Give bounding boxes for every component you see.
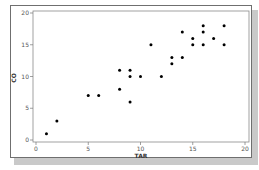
data-point — [223, 43, 226, 46]
x-tick-label: 20 — [241, 145, 249, 152]
scatter-chart: 05101520 05101520 TAR CO — [0, 0, 259, 170]
data-point — [87, 94, 90, 97]
data-point — [181, 31, 184, 34]
data-point — [202, 43, 205, 46]
y-tick-label: 20 — [21, 9, 29, 16]
y-tick-label: 15 — [21, 41, 29, 48]
x-axis-title: TAR — [135, 152, 148, 159]
y-tick-label: 5 — [25, 104, 29, 111]
data-point — [97, 94, 100, 97]
x-tick-label: 5 — [86, 145, 90, 152]
x-tick-label: 10 — [137, 145, 145, 152]
x-axis: 05101520 — [34, 142, 249, 152]
data-point — [149, 43, 152, 46]
data-point — [160, 75, 163, 78]
data-point — [212, 37, 215, 40]
data-point — [202, 24, 205, 27]
data-point — [129, 75, 132, 78]
data-point — [191, 43, 194, 46]
y-tick-label: 0 — [25, 136, 29, 143]
data-point — [129, 69, 132, 72]
data-point — [129, 100, 132, 103]
data-point — [181, 56, 184, 59]
y-axis-title: CO — [10, 73, 17, 83]
data-point — [223, 24, 226, 27]
x-tick-label: 0 — [34, 145, 38, 152]
data-point — [118, 88, 121, 91]
data-point — [118, 69, 121, 72]
data-point — [170, 56, 173, 59]
x-tick-label: 15 — [189, 145, 197, 152]
data-point — [202, 31, 205, 34]
data-point — [55, 119, 58, 122]
data-point — [191, 37, 194, 40]
y-tick-label: 10 — [21, 73, 29, 80]
data-point — [170, 62, 173, 65]
data-point — [45, 132, 48, 135]
data-point — [139, 75, 142, 78]
y-axis: 05101520 — [21, 9, 33, 143]
